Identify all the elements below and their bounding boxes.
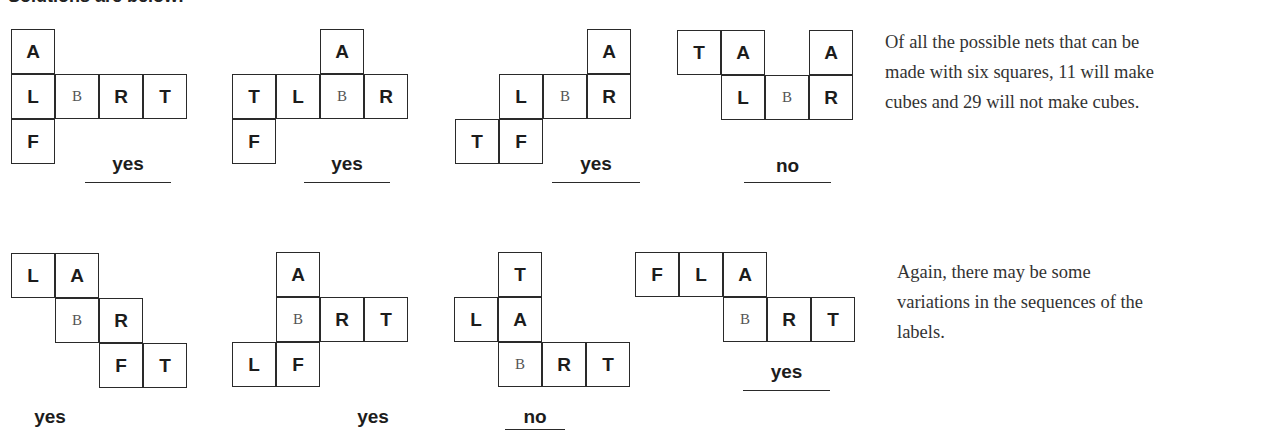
net-square-r: R	[542, 342, 586, 387]
paragraph-line: Of all the possible nets that can be	[885, 27, 1154, 57]
paragraph-line: cubes and 29 will not make cubes.	[885, 87, 1154, 117]
net-square-t: T	[677, 30, 721, 75]
answer-underline	[552, 182, 640, 183]
answer-underline	[304, 182, 390, 183]
verdict-label: yes	[20, 406, 80, 428]
answer-underline	[743, 390, 830, 391]
verdict-label: yes	[85, 153, 171, 175]
net-square-l: L	[499, 74, 543, 119]
net-square-l: L	[11, 74, 55, 119]
net-square-f: F	[11, 119, 55, 164]
net-square-t: T	[498, 252, 542, 297]
net-square-b: B	[320, 74, 364, 119]
net-square-l: L	[454, 297, 498, 342]
net-square-a: A	[809, 30, 853, 75]
net-square-a: A	[498, 297, 542, 342]
net-square-l: L	[232, 342, 276, 387]
net-square-r: R	[767, 297, 811, 342]
net-square-t: T	[143, 343, 187, 388]
net-square-b: B	[55, 74, 99, 119]
net-square-r: R	[99, 298, 143, 343]
answer-underline	[85, 182, 171, 183]
paragraph-line: made with six squares, 11 will make	[885, 57, 1154, 87]
answer-underline	[744, 182, 831, 183]
net-square-r: R	[587, 74, 631, 119]
paragraph-line: Again, there may be some	[897, 257, 1143, 287]
paragraph-line: labels.	[897, 317, 1143, 347]
net-square-f: F	[99, 343, 143, 388]
net-square-a: A	[11, 29, 55, 74]
net-square-a: A	[587, 29, 631, 74]
net-square-t: T	[364, 297, 408, 342]
net-square-t: T	[811, 297, 855, 342]
net-square-a: A	[320, 29, 364, 74]
net-square-f: F	[499, 119, 543, 164]
net-square-f: F	[635, 252, 679, 297]
net-square-l: L	[679, 252, 723, 297]
net-square-t: T	[586, 342, 630, 387]
net-square-f: F	[232, 119, 276, 164]
verdict-label: yes	[743, 361, 830, 383]
net-square-t: T	[455, 119, 499, 164]
net-square-b: B	[723, 297, 767, 342]
net-square-r: R	[99, 74, 143, 119]
net-square-l: L	[721, 75, 765, 120]
net-square-b: B	[765, 75, 809, 120]
net-square-b: B	[55, 298, 99, 343]
net-square-t: T	[143, 74, 187, 119]
net-square-b: B	[543, 74, 587, 119]
net-square-l: L	[11, 253, 55, 298]
net-square-a: A	[276, 252, 320, 297]
net-square-a: A	[55, 253, 99, 298]
verdict-label: yes	[304, 153, 390, 175]
net-square-b: B	[276, 297, 320, 342]
net-square-b: B	[498, 342, 542, 387]
net-square-l: L	[276, 74, 320, 119]
paragraph-line: variations in the sequences of the	[897, 287, 1143, 317]
net-square-f: F	[276, 342, 320, 387]
verdict-label: yes	[552, 153, 640, 175]
net-square-r: R	[320, 297, 364, 342]
net-square-r: R	[364, 74, 408, 119]
nets-count-note: Of all the possible nets that can bemade…	[885, 27, 1154, 117]
net-square-r: R	[809, 75, 853, 120]
net-square-a: A	[723, 252, 767, 297]
verdict-label: no	[505, 406, 565, 428]
verdict-label: no	[744, 155, 831, 177]
variations-note: Again, there may be somevariations in th…	[897, 257, 1143, 347]
net-square-t: T	[232, 74, 276, 119]
verdict-label: yes	[343, 406, 403, 428]
net-square-a: A	[721, 30, 765, 75]
cutoff-heading: Solutions are below:	[8, 0, 184, 7]
